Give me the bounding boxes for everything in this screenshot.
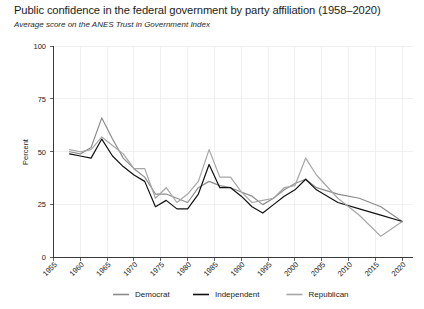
y-tick-labels: 0255075100 [33, 42, 53, 262]
y-tick-label: 0 [42, 253, 46, 262]
x-tick-label: 1990 [229, 260, 247, 278]
x-tick-label: 1965 [94, 260, 112, 278]
x-tick-label: 1995 [255, 260, 273, 278]
x-tick-label: 1980 [175, 260, 193, 278]
y-axis-label: Percent [21, 138, 30, 165]
line-chart-plot: 0255075100 19551960196519701975198019851… [0, 0, 424, 309]
x-tick-label: 1970 [121, 260, 139, 278]
legend-label-independent[interactable]: Independent [215, 290, 260, 299]
x-tick-label: 2020 [390, 260, 408, 278]
x-tick-labels: 1955196019651970197519801985199019952000… [41, 258, 408, 279]
x-tick-label: 1955 [41, 260, 59, 278]
y-tick-label: 75 [38, 95, 46, 104]
x-tick-label: 2000 [282, 260, 300, 278]
x-tick-label: 2015 [363, 260, 381, 278]
legend-label-republican[interactable]: Republican [309, 290, 349, 299]
series-line-democrat [70, 118, 403, 222]
y-tick-label: 25 [38, 200, 46, 209]
y-tick-label: 100 [33, 42, 46, 51]
x-tick-label: 1985 [202, 260, 220, 278]
x-tick-label: 2005 [309, 260, 327, 278]
x-tick-label: 1960 [68, 260, 86, 278]
chart-legend: DemocratIndependentRepublican [113, 290, 349, 299]
data-series-group [70, 118, 403, 236]
y-tick-label: 50 [38, 148, 46, 157]
chart-figure: Public confidence in the federal governm… [0, 0, 424, 309]
legend-label-democrat[interactable]: Democrat [135, 290, 170, 299]
x-tick-label: 2010 [336, 260, 354, 278]
x-tick-label: 1975 [148, 260, 166, 278]
